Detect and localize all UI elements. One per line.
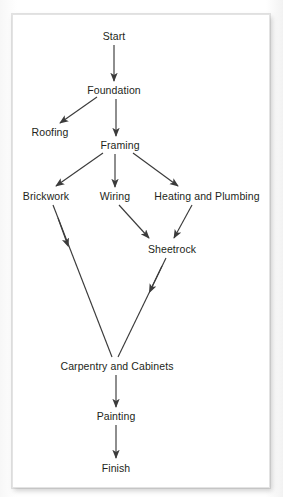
edge-sheetrock-carpentry-arrowhead	[151, 266, 162, 289]
edge-foundation-roofing	[60, 97, 97, 123]
node-roofing[interactable]: Roofing	[32, 126, 69, 138]
node-heating-and-plumbing[interactable]: Heating and Plumbing	[154, 190, 259, 202]
node-carpentry-and-cabinets[interactable]: Carpentry and Cabinets	[60, 360, 173, 372]
node-start[interactable]: Start	[103, 30, 126, 42]
edge-heating-sheetrock	[174, 205, 192, 238]
node-brickwork[interactable]: Brickwork	[23, 190, 69, 202]
node-finish[interactable]: Finish	[102, 462, 131, 474]
edge-wiring-sheetrock	[119, 205, 149, 238]
node-wiring[interactable]: Wiring	[100, 190, 130, 202]
edge-brickwork-carpentry-arrowhead	[58, 218, 67, 243]
page-root: Start Foundation Roofing Framing Brickwo…	[0, 0, 283, 497]
node-sheetrock[interactable]: Sheetrock	[148, 243, 196, 255]
node-foundation[interactable]: Foundation	[87, 84, 141, 96]
flowchart-graph	[0, 0, 283, 497]
edge-framing-brickwork	[56, 153, 103, 186]
node-framing[interactable]: Framing	[100, 139, 139, 151]
edge-framing-heating	[133, 153, 178, 186]
node-painting[interactable]: Painting	[97, 410, 136, 422]
